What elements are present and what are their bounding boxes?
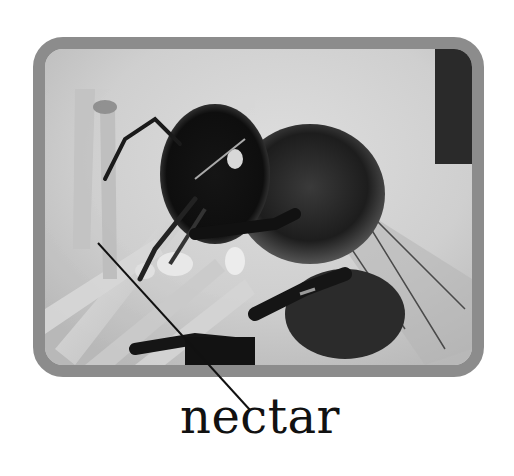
photo-frame xyxy=(33,37,484,377)
bee-photo xyxy=(45,49,472,365)
diagram-canvas: nectar xyxy=(0,0,514,476)
bee-illustration xyxy=(45,49,472,365)
nectar-label: nectar xyxy=(180,386,340,446)
